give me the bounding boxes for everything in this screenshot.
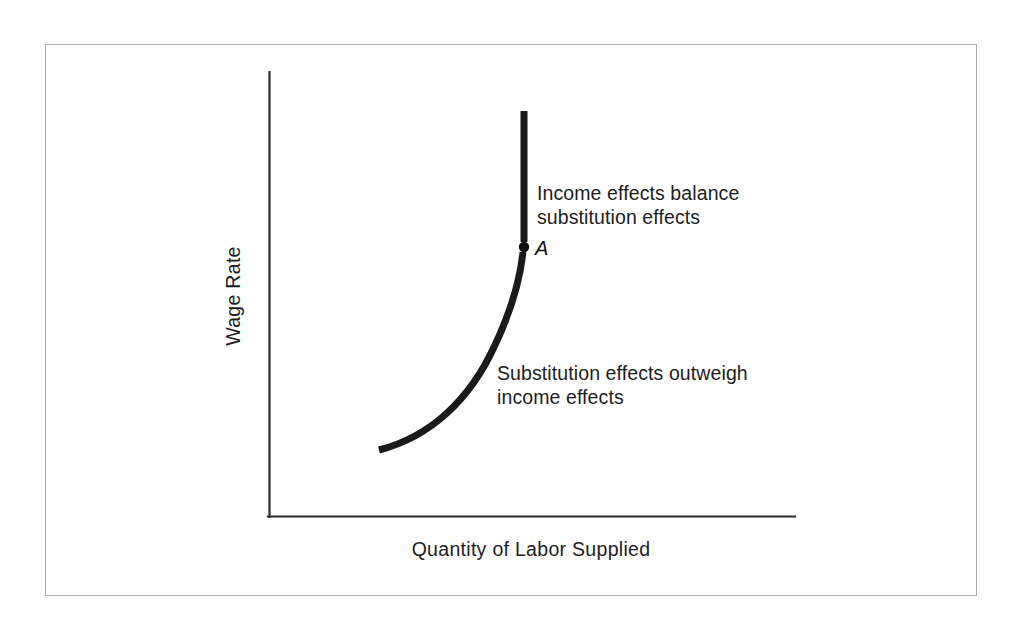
point-a-marker [519, 242, 529, 252]
labor-supply-chart: A Income effects balance substitution ef… [0, 0, 1021, 635]
lower-annotation-line-2: income effects [497, 386, 624, 408]
x-axis-label: Quantity of Labor Supplied [412, 538, 651, 560]
upper-annotation-line-1: Income effects balance [537, 182, 739, 204]
lower-annotation-line-1: Substitution effects outweigh [497, 362, 748, 384]
upper-annotation-line-2: substitution effects [537, 206, 700, 228]
figure-root: A Income effects balance substitution ef… [0, 0, 1021, 635]
y-axis-label: Wage Rate [222, 246, 244, 346]
point-a-label: A [534, 237, 548, 259]
supply-curve-lower-segment [379, 252, 523, 450]
